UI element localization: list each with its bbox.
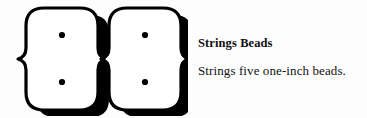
bead-1-body [18, 8, 106, 110]
page-root: Strings Beads Strings five one-inch bead… [0, 0, 367, 118]
bead-illustration [16, 2, 188, 116]
bead-1-hole-top [59, 32, 65, 38]
bead-2-body [101, 8, 188, 110]
bead-description: Strings five one-inch beads. [198, 63, 363, 78]
bead-1 [18, 8, 117, 116]
bead-2-hole-bottom [142, 79, 148, 85]
bead-2 [101, 8, 188, 116]
bead-2-hole-top [142, 32, 148, 38]
bead-title: Strings Beads [198, 36, 363, 50]
caption-block: Strings Beads Strings five one-inch bead… [198, 36, 363, 78]
bead-1-hole-bottom [59, 79, 65, 85]
